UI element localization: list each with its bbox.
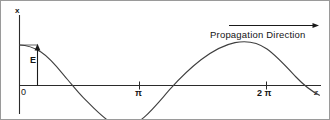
plot-canvas: [1, 1, 330, 120]
x-axis-label: z: [314, 89, 318, 97]
wave-curve: [20, 42, 320, 120]
wave-propagation-figure: x 0 E π 2 π z Propagation Direction: [0, 0, 330, 120]
propagation-direction-label: Propagation Direction: [210, 30, 306, 40]
y-axis-label: x: [15, 7, 19, 15]
amplitude-label: E: [30, 56, 36, 65]
origin-label: 0: [21, 88, 26, 97]
tick-label-two-pi: 2 π: [257, 89, 271, 98]
tick-label-pi: π: [135, 89, 142, 98]
arrow-right-icon: [313, 23, 320, 28]
